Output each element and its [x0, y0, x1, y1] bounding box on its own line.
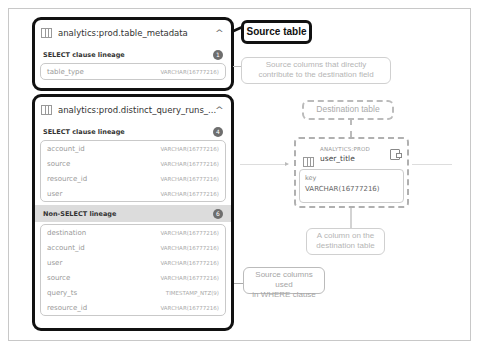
- column-row[interactable]: destinationVARCHAR(16777216): [41, 225, 225, 240]
- column-row[interactable]: table_type VARCHAR(16777216): [41, 64, 225, 79]
- column-name: table_type: [47, 68, 84, 76]
- table-name: analytics:prod.distinct_query_runs_...: [58, 105, 216, 115]
- callout-text: Source columns used: [247, 270, 321, 290]
- chevron-up-icon[interactable]: ^: [215, 29, 224, 38]
- column-name: resource_id: [47, 304, 87, 312]
- destination-table-node[interactable]: ANALYTICS:PROD user_title key VARCHAR(16…: [294, 137, 409, 208]
- column-type: VARCHAR(16777216): [160, 161, 219, 167]
- chevron-up-icon[interactable]: ^: [215, 106, 224, 115]
- column-row[interactable]: userVARCHAR(16777216): [41, 255, 225, 270]
- column-type: VARCHAR(16777216): [160, 260, 219, 266]
- dest-schema: ANALYTICS:PROD: [320, 146, 370, 152]
- dest-column-type: VARCHAR(16777216): [305, 185, 398, 193]
- column-name: destination: [47, 229, 86, 237]
- column-list: account_idVARCHAR(16777216) sourceVARCHA…: [40, 140, 226, 202]
- callout-source-table: Source table: [241, 20, 312, 44]
- column-type: VARCHAR(16777216): [160, 69, 219, 75]
- column-name: source: [47, 160, 70, 168]
- column-row[interactable]: userVARCHAR(16777216): [41, 186, 225, 201]
- column-name: user: [47, 190, 62, 198]
- section-header-select[interactable]: SELECT clause lineage 4: [35, 123, 231, 140]
- lineage-edge-out: [412, 164, 452, 165]
- open-table-icon[interactable]: [390, 149, 400, 160]
- table-name: analytics:prod.table_metadata: [58, 28, 216, 38]
- callout-where-clause: Source columns used in WHERE clause: [243, 267, 325, 294]
- card-header[interactable]: analytics:prod.table_metadata ^: [35, 20, 231, 46]
- callout-direct-contrib: Source columns that directly contribute …: [241, 57, 391, 84]
- column-type: VARCHAR(16777216): [160, 176, 219, 182]
- count-badge: 1: [213, 50, 223, 60]
- callout-destination-table: Destination table: [302, 100, 394, 120]
- callout-text: in WHERE clause: [247, 290, 321, 300]
- table-icon: [303, 157, 314, 167]
- column-name: query_ts: [47, 289, 77, 297]
- arrow-head-icon: [285, 162, 289, 166]
- column-list: table_type VARCHAR(16777216): [40, 63, 226, 80]
- column-name: source: [47, 274, 70, 282]
- column-type: VARCHAR(16777216): [160, 146, 219, 152]
- count-badge: 6: [213, 209, 223, 219]
- callout-pointer: [350, 208, 352, 229]
- column-type: VARCHAR(16777216): [160, 230, 219, 236]
- column-list: destinationVARCHAR(16777216) account_idV…: [40, 224, 226, 316]
- section-label: SELECT clause lineage: [43, 128, 125, 136]
- column-type: VARCHAR(16777216): [160, 275, 219, 281]
- column-row[interactable]: query_tsTIMESTAMP_NTZ(9): [41, 285, 225, 300]
- section-header-non-select[interactable]: Non-SELECT lineage 6: [35, 205, 231, 222]
- callout-text: contribute to the destination field: [245, 70, 387, 80]
- dest-column[interactable]: key VARCHAR(16777216): [299, 169, 404, 203]
- column-row[interactable]: account_idVARCHAR(16777216): [41, 240, 225, 255]
- source-table-card-metadata: analytics:prod.table_metadata ^ SELECT c…: [32, 17, 234, 91]
- callout-text: A column on the: [310, 231, 381, 241]
- column-type: VARCHAR(16777216): [160, 191, 219, 197]
- column-name: account_id: [47, 244, 85, 252]
- column-row[interactable]: resource_idVARCHAR(16777216): [41, 171, 225, 186]
- column-type: TIMESTAMP_NTZ(9): [166, 290, 219, 296]
- callout-dest-column: A column on the destination table: [306, 228, 385, 255]
- column-name: account_id: [47, 145, 85, 153]
- column-row[interactable]: resource_idVARCHAR(16777216): [41, 300, 225, 315]
- column-type: VARCHAR(16777216): [160, 245, 219, 251]
- count-badge: 4: [213, 127, 223, 137]
- column-name: resource_id: [47, 175, 87, 183]
- table-icon: [41, 105, 52, 115]
- table-icon: [41, 28, 52, 38]
- column-name: user: [47, 259, 62, 267]
- card-header[interactable]: analytics:prod.distinct_query_runs_... ^: [35, 97, 231, 123]
- column-row[interactable]: sourceVARCHAR(16777216): [41, 270, 225, 285]
- column-row[interactable]: sourceVARCHAR(16777216): [41, 156, 225, 171]
- source-table-card-query-runs: analytics:prod.distinct_query_runs_... ^…: [32, 94, 234, 331]
- section-header-select[interactable]: SELECT clause lineage 1: [35, 46, 231, 63]
- lineage-edge-in: [240, 164, 288, 165]
- callout-text: Source columns that directly: [245, 60, 387, 70]
- dest-table-name: user_title: [320, 154, 355, 163]
- callout-pointer: [350, 119, 352, 137]
- dest-column-name: key: [305, 174, 398, 182]
- dest-header: ANALYTICS:PROD user_title: [296, 139, 407, 169]
- section-label: SELECT clause lineage: [43, 51, 125, 59]
- section-label: Non-SELECT lineage: [43, 210, 116, 218]
- column-type: VARCHAR(16777216): [160, 305, 219, 311]
- callout-text: destination table: [310, 241, 381, 251]
- column-row[interactable]: account_idVARCHAR(16777216): [41, 141, 225, 156]
